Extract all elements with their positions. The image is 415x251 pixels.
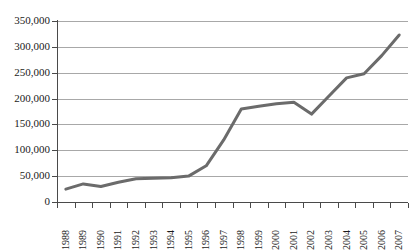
- gridline: [57, 150, 408, 151]
- x-axis-tick-label: 2004: [341, 210, 353, 250]
- x-axis-tick-label: 1993: [148, 210, 160, 250]
- y-axis-tick: [52, 176, 57, 177]
- x-axis-tick: [373, 203, 374, 208]
- y-axis-tick-label: 250,000: [0, 67, 50, 78]
- x-axis-tick-label: 1988: [60, 210, 72, 250]
- x-axis-tick-label: 2005: [358, 210, 370, 250]
- y-axis-tick: [52, 150, 57, 151]
- x-axis-tick: [75, 203, 76, 208]
- x-axis-tick: [127, 203, 128, 208]
- x-axis-tick: [215, 203, 216, 208]
- x-axis-tick-label: 1992: [130, 210, 142, 250]
- x-axis-tick-label: 1989: [77, 210, 89, 250]
- y-axis-tick-label: 350,000: [0, 15, 50, 26]
- x-axis-tick: [57, 203, 58, 208]
- x-axis-tick: [303, 203, 304, 208]
- x-axis-tick-label: 2002: [305, 210, 317, 250]
- x-axis-tick: [180, 203, 181, 208]
- x-axis-tick-label: 2003: [323, 210, 335, 250]
- y-axis-tick: [52, 47, 57, 48]
- gridline: [57, 176, 408, 177]
- x-axis-tick-label: 1997: [218, 210, 230, 250]
- y-axis-tick-label: 200,000: [0, 93, 50, 104]
- x-axis-tick-label: 1991: [112, 210, 124, 250]
- x-axis-tick-label: 1996: [200, 210, 212, 250]
- x-axis-tick-label: 1994: [165, 210, 177, 250]
- gridline: [57, 73, 408, 74]
- y-axis-tick: [52, 21, 57, 22]
- x-axis-tick-label: 1990: [95, 210, 107, 250]
- line-chart: 050,000100,000150,000200,000250,000300,0…: [0, 0, 415, 251]
- x-axis-tick: [250, 203, 251, 208]
- x-axis-tick: [320, 203, 321, 208]
- gridline: [57, 47, 408, 48]
- x-axis-tick: [110, 203, 111, 208]
- x-axis-tick-label: 2006: [376, 210, 388, 250]
- gridline: [57, 21, 408, 22]
- x-axis-tick: [408, 203, 409, 208]
- x-axis-tick-label: 1998: [235, 210, 247, 250]
- y-axis-tick-label: 0: [0, 196, 50, 207]
- x-axis-tick-label: 2000: [270, 210, 282, 250]
- x-axis-tick: [162, 203, 163, 208]
- x-axis-tick-label: 1999: [253, 210, 265, 250]
- x-axis-tick-label: 2007: [393, 210, 405, 250]
- x-axis-tick: [268, 203, 269, 208]
- gridline: [57, 99, 408, 100]
- x-axis-tick: [92, 203, 93, 208]
- y-axis-tick: [52, 124, 57, 125]
- x-axis-tick: [145, 203, 146, 208]
- y-axis-tick: [52, 73, 57, 74]
- x-axis-tick-label: 1995: [183, 210, 195, 250]
- y-axis-tick-label: 50,000: [0, 170, 50, 181]
- x-axis-tick: [338, 203, 339, 208]
- y-axis-tick: [52, 99, 57, 100]
- x-axis-tick: [285, 203, 286, 208]
- x-axis-tick: [355, 203, 356, 208]
- x-axis-tick: [390, 203, 391, 208]
- gridline: [57, 124, 408, 125]
- y-axis-line: [57, 20, 58, 203]
- x-axis-tick: [197, 203, 198, 208]
- x-axis-tick: [233, 203, 234, 208]
- series-line-1: [66, 35, 399, 189]
- y-axis-tick-label: 150,000: [0, 118, 50, 129]
- y-axis-tick-label: 100,000: [0, 144, 50, 155]
- x-axis-tick-label: 2001: [288, 210, 300, 250]
- y-axis-tick-label: 300,000: [0, 41, 50, 52]
